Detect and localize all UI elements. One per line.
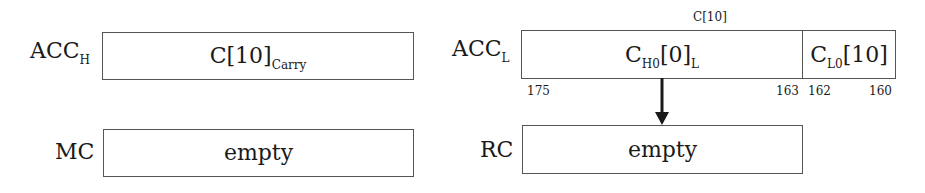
acc-l-top-label: C[10] — [693, 11, 727, 23]
rc-label: RC — [480, 139, 513, 161]
mc-label: MC — [55, 141, 94, 163]
acc-l-cell-high-content: CH0[0]L — [625, 44, 699, 66]
acc-l-register: CH0[0]L CL0[10] — [521, 30, 896, 79]
acc-l-label: ACCL — [452, 38, 510, 60]
bit-label-175: 175 — [527, 85, 550, 97]
acc-h-content: C[10]Carry — [210, 45, 307, 67]
acc-h-label: ACCH — [30, 40, 90, 62]
mc-content: empty — [224, 142, 293, 164]
acc-l-cell-high: CH0[0]L — [522, 31, 802, 78]
acc-l-cell-low: CL0[10] — [802, 31, 895, 78]
acc-h-cell: C[10]Carry — [103, 33, 413, 79]
rc-cell: empty — [523, 126, 802, 173]
bit-label-163: 163 — [776, 85, 799, 97]
mc-register: empty — [103, 129, 414, 177]
down-arrow-icon — [652, 78, 672, 128]
mc-cell: empty — [104, 130, 413, 176]
rc-register: empty — [522, 125, 803, 174]
rc-content: empty — [628, 139, 697, 161]
bit-label-160: 160 — [869, 85, 892, 97]
acc-l-cell-low-content: CL0[10] — [810, 44, 888, 66]
bit-label-162: 162 — [808, 85, 831, 97]
acc-h-register: C[10]Carry — [102, 32, 414, 80]
